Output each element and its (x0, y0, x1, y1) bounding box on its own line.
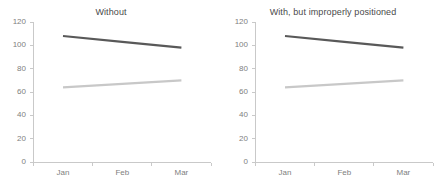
series-line-dark (63, 36, 181, 48)
series-line-light (285, 80, 403, 87)
ytick-label-80: 80 (17, 64, 26, 73)
charts-row: Without 120 100 80 60 40 20 0 (0, 0, 444, 182)
ytick-label-60: 60 (239, 87, 248, 96)
ytick-label-20: 20 (17, 134, 26, 143)
ytick-label-0: 0 (244, 157, 249, 166)
xtick-label-mar: Mar (397, 168, 411, 177)
series-line-light (63, 80, 181, 87)
line-chart-svg: 120 100 80 60 40 20 0 Ja (222, 0, 444, 182)
xtick-label-jan: Jan (57, 168, 70, 177)
plot-area: 120 100 80 60 40 20 0 (0, 0, 222, 182)
ytick-label-100: 100 (13, 40, 27, 49)
line-chart-svg: 120 100 80 60 40 20 0 (0, 0, 222, 182)
ytick-label-60: 60 (17, 87, 26, 96)
ytick-label-40: 40 (17, 110, 26, 119)
ytick-label-80: 80 (239, 64, 248, 73)
ytick-label-100: 100 (235, 40, 249, 49)
ytick-label-120: 120 (13, 17, 27, 26)
plot-area: 120 100 80 60 40 20 0 Ja (222, 0, 444, 182)
chart-panel-without: Without 120 100 80 60 40 20 0 (0, 0, 222, 182)
ytick-label-20: 20 (239, 134, 248, 143)
xtick-label-feb: Feb (115, 168, 129, 177)
xtick-label-jan: Jan (279, 168, 292, 177)
ytick-label-120: 120 (235, 17, 249, 26)
chart-panel-with-improperly-positioned: With, but improperly positioned 120 100 … (222, 0, 444, 182)
xtick-label-feb: Feb (337, 168, 351, 177)
xtick-label-mar: Mar (175, 168, 189, 177)
ytick-label-0: 0 (22, 157, 27, 166)
ytick-label-40: 40 (239, 110, 248, 119)
series-line-dark (285, 36, 403, 48)
